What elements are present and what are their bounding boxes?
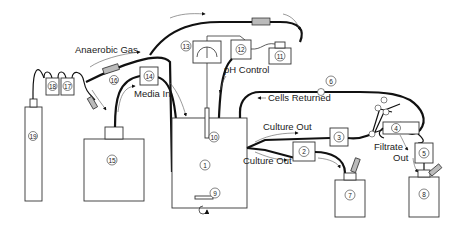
gas-filter bbox=[102, 64, 119, 75]
ph-probe bbox=[205, 108, 209, 138]
label-17: 17 bbox=[64, 83, 72, 90]
filtrate-reservoir: 8 bbox=[409, 163, 442, 217]
ph-meter: 13 bbox=[181, 41, 221, 63]
label-filtrate: Filtrate bbox=[374, 141, 403, 152]
valve-6 bbox=[318, 89, 325, 96]
label-out: Out bbox=[393, 152, 409, 163]
label-6: 6 bbox=[329, 78, 333, 85]
stir-bar bbox=[195, 196, 213, 199]
label-12: 12 bbox=[237, 46, 245, 53]
label-4: 4 bbox=[394, 125, 398, 132]
bioreactor-diagram: 19 18 17 15 16 Anaerobic Gas 14 Media In bbox=[0, 0, 468, 230]
label-19: 19 bbox=[29, 133, 37, 140]
label-18: 18 bbox=[49, 83, 57, 90]
label-culture-out-upper: Culture Out bbox=[263, 121, 312, 132]
label-media-in: Media In bbox=[134, 88, 170, 99]
label-16: 16 bbox=[110, 77, 118, 84]
label-2: 2 bbox=[302, 148, 306, 155]
label-7: 7 bbox=[348, 192, 352, 199]
label-9: 9 bbox=[213, 190, 217, 197]
label-11: 11 bbox=[277, 53, 284, 60]
label-culture-out-lower: Culture Out bbox=[243, 155, 292, 166]
label-13: 13 bbox=[182, 43, 190, 50]
gas-cylinder: 19 bbox=[25, 70, 44, 201]
top-gas-filter bbox=[252, 18, 270, 25]
cross-flow-filter bbox=[383, 122, 419, 134]
label-15: 15 bbox=[108, 157, 116, 164]
media-reservoir: 15 bbox=[84, 127, 144, 201]
base-reservoir: 11 bbox=[269, 42, 291, 64]
label-3: 3 bbox=[337, 134, 341, 141]
label-10: 10 bbox=[210, 134, 218, 141]
sterile-filter bbox=[87, 96, 97, 109]
label-8: 8 bbox=[422, 191, 426, 198]
label-ph-control: pH Control bbox=[224, 64, 269, 75]
label-1: 1 bbox=[203, 162, 207, 169]
gas-purifiers: 18 17 bbox=[44, 72, 95, 100]
label-5: 5 bbox=[422, 150, 426, 157]
label-14: 14 bbox=[145, 73, 153, 80]
